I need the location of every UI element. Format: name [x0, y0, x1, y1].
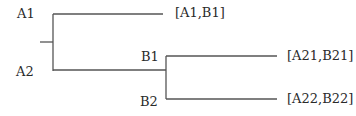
leaf-label-a21-b21: [A21,B21]: [287, 49, 353, 63]
node-label-b2: B2: [140, 95, 158, 109]
node-label-a1: A1: [17, 7, 35, 21]
leaf-label-a1-b1: [A1,B1]: [175, 6, 225, 20]
node-label-b1: B1: [141, 50, 159, 64]
node-label-a2: A2: [16, 65, 34, 79]
leaf-label-a22-b22: [A22,B22]: [287, 92, 353, 106]
